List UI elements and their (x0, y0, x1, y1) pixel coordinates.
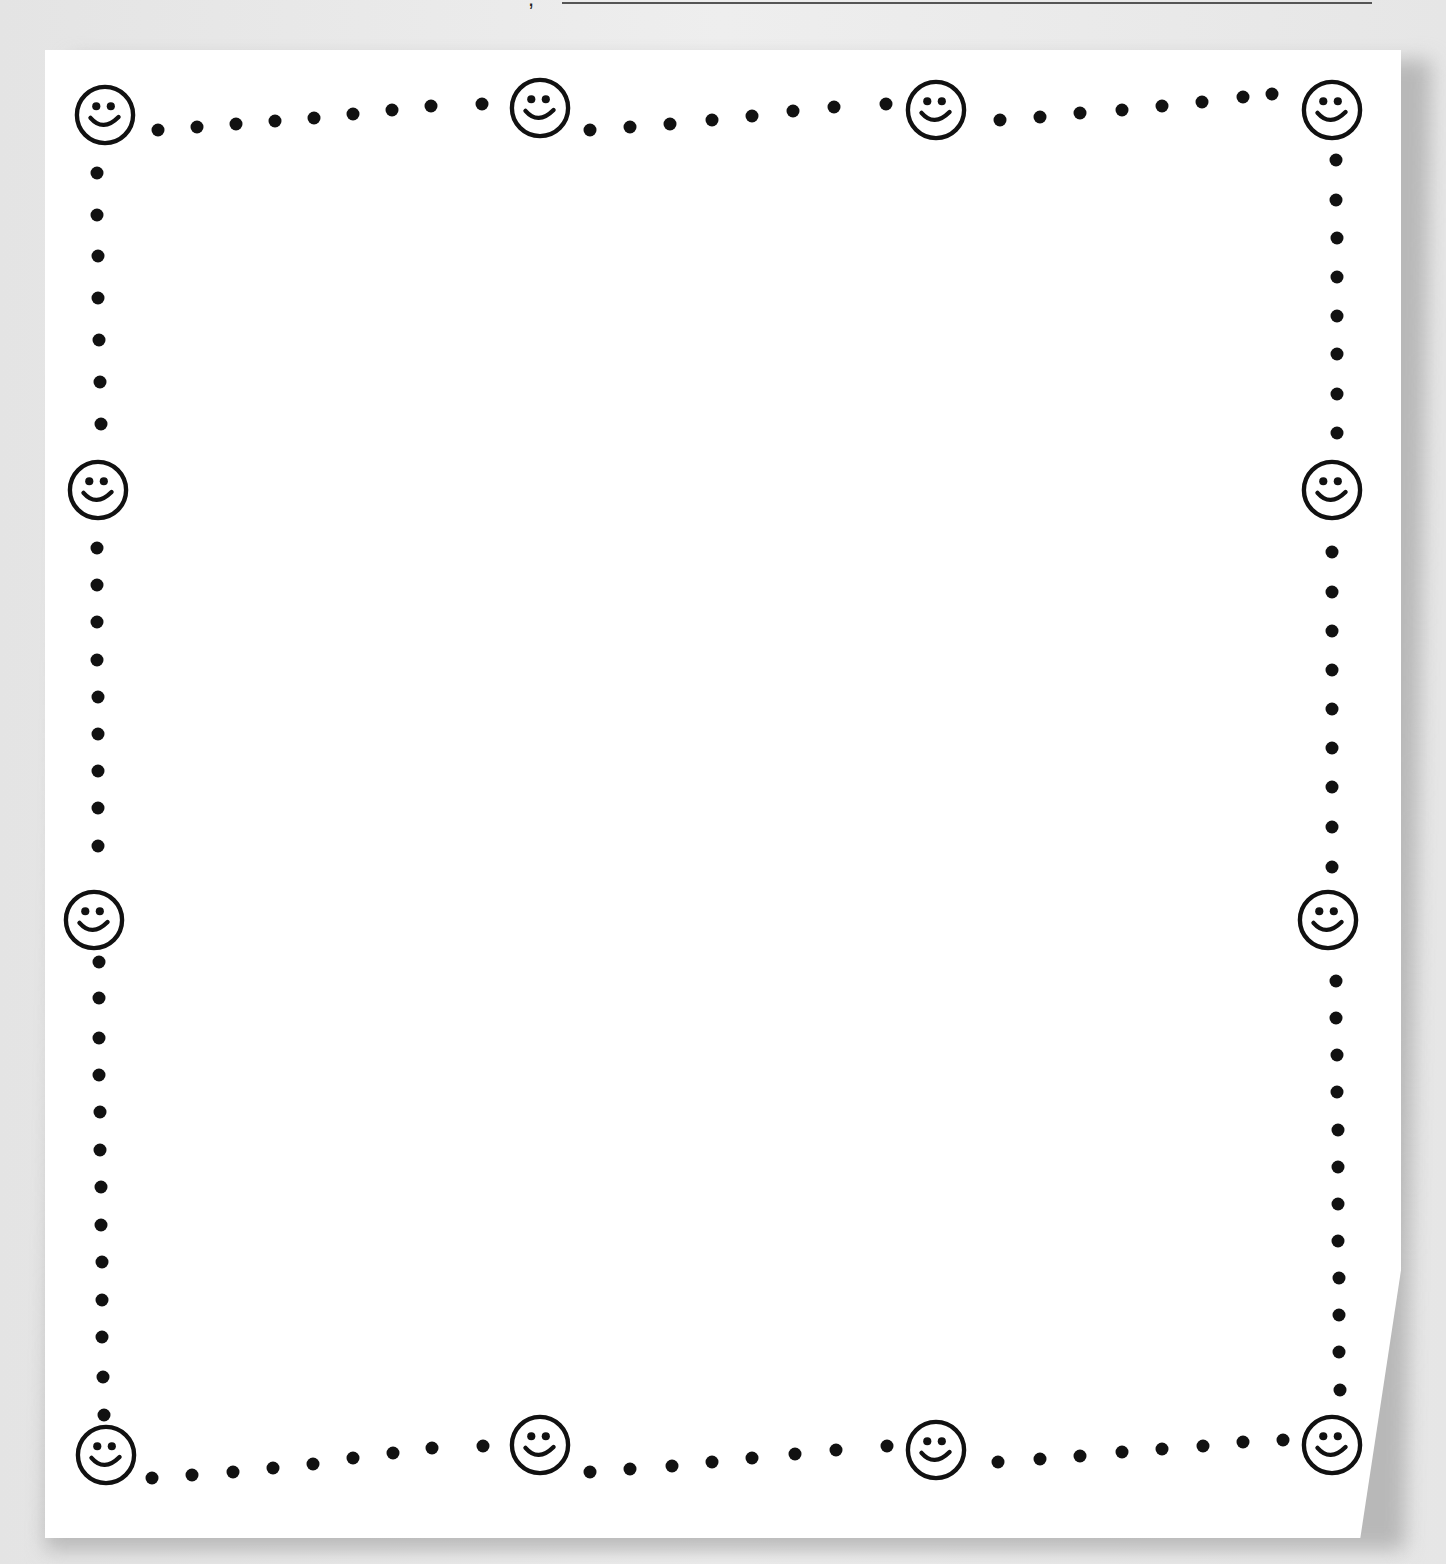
border-dot (828, 101, 841, 114)
border-dot (91, 167, 104, 180)
border-dot (1326, 821, 1339, 834)
border-dot (789, 1448, 802, 1461)
smiley-face-icon (905, 79, 967, 141)
border-dot (476, 98, 489, 111)
border-dot (1034, 111, 1047, 124)
border-dot (93, 334, 106, 347)
border-dot (1326, 586, 1339, 599)
border-dot (93, 1069, 106, 1082)
border-dot (267, 1462, 280, 1475)
border-dot (624, 121, 637, 134)
smiley-face-icon (509, 1414, 571, 1476)
border-dot (1331, 1086, 1344, 1099)
border-dot (93, 992, 106, 1005)
border-dot (1326, 546, 1339, 559)
smiley-dotted-border (0, 0, 1446, 1564)
border-dot (1331, 232, 1344, 245)
border-dot (787, 105, 800, 118)
border-dot (386, 104, 399, 117)
smiley-face-icon (67, 459, 129, 521)
border-dot (1196, 96, 1209, 109)
border-dot (746, 110, 759, 123)
border-dot (1074, 1450, 1087, 1463)
border-dot (95, 1219, 108, 1232)
border-dot (1331, 271, 1344, 284)
border-dot (1331, 388, 1344, 401)
border-dot (91, 542, 104, 555)
border-dot (96, 1331, 109, 1344)
border-dot (347, 108, 360, 121)
border-dot (1237, 91, 1250, 104)
border-dot (307, 1458, 320, 1471)
border-dot (881, 1440, 894, 1453)
border-dot (95, 418, 108, 431)
smiley-face-icon (63, 889, 125, 951)
smiley-face-icon (509, 77, 571, 139)
border-dot (1156, 100, 1169, 113)
border-dot (666, 1460, 679, 1473)
smiley-face-icon (905, 1419, 967, 1481)
border-dot (1116, 1446, 1129, 1459)
border-dot (992, 1456, 1005, 1469)
border-dot (880, 98, 893, 111)
border-dot (92, 765, 105, 778)
border-dot (1331, 1049, 1344, 1062)
border-dot (186, 1469, 199, 1482)
border-dot (425, 100, 438, 113)
border-dot (1326, 742, 1339, 755)
border-dot (94, 1144, 107, 1157)
border-dot (191, 121, 204, 134)
border-dot (1326, 703, 1339, 716)
smiley-face-icon (1301, 459, 1363, 521)
border-dot (830, 1444, 843, 1457)
border-dot (1331, 348, 1344, 361)
border-dot (1334, 1384, 1347, 1397)
border-dot (1330, 1012, 1343, 1025)
border-dot (664, 118, 677, 131)
border-dot (1332, 1198, 1345, 1211)
border-dot (227, 1466, 240, 1479)
smiley-face-icon (1301, 79, 1363, 141)
border-dot (96, 1294, 109, 1307)
border-dot (1331, 427, 1344, 440)
border-dot (584, 124, 597, 137)
border-dot (93, 1032, 106, 1045)
border-dot (1156, 1443, 1169, 1456)
border-dot (91, 654, 104, 667)
border-dot (230, 118, 243, 131)
border-dot (1333, 1346, 1346, 1359)
border-dot (94, 1106, 107, 1119)
border-dot (92, 728, 105, 741)
smiley-face-icon (1297, 889, 1359, 951)
border-dot (152, 124, 165, 137)
border-dot (98, 1409, 111, 1422)
border-dot (347, 1452, 360, 1465)
border-dot (1333, 1272, 1346, 1285)
border-dot (92, 292, 105, 305)
smiley-face-icon (1301, 1414, 1363, 1476)
smiley-face-icon (74, 84, 136, 146)
border-dot (1330, 975, 1343, 988)
border-dot (1331, 310, 1344, 323)
border-dot (91, 209, 104, 222)
border-dot (584, 1466, 597, 1479)
border-dot (95, 1181, 108, 1194)
border-dot (92, 840, 105, 853)
border-dot (706, 1456, 719, 1469)
border-dot (1332, 1161, 1345, 1174)
border-dot (91, 579, 104, 592)
border-dot (1277, 1434, 1290, 1447)
border-dot (994, 114, 1007, 127)
border-dot (146, 1472, 159, 1485)
border-dot (1326, 861, 1339, 874)
border-dot (1332, 1235, 1345, 1248)
border-dot (1326, 664, 1339, 677)
border-dot (624, 1463, 637, 1476)
border-dot (426, 1442, 439, 1455)
border-dot (1266, 88, 1279, 101)
border-dot (1333, 1309, 1346, 1322)
border-dot (706, 114, 719, 127)
border-dot (1074, 107, 1087, 120)
border-dot (1116, 104, 1129, 117)
border-dot (1237, 1436, 1250, 1449)
